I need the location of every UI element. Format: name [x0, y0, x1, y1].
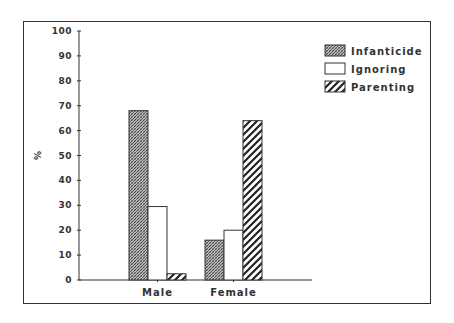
x-category-label: Male: [142, 287, 173, 298]
y-tick-label: 70: [58, 101, 72, 111]
y-tick-label: 10: [58, 250, 72, 260]
y-tick-label: 40: [58, 175, 72, 185]
axes: 0102030405060708090100%MaleFemale: [33, 26, 312, 298]
bar-female-ignoring: [224, 230, 243, 280]
y-tick-label: 60: [58, 126, 72, 136]
legend-swatch-parenting: [325, 81, 345, 92]
bar-chart: 0102030405060708090100%MaleFemale Infant…: [0, 0, 454, 323]
legend-label-infanticide: Infanticide: [351, 46, 423, 57]
y-tick-label: 50: [58, 151, 72, 161]
bar-male-ignoring: [148, 207, 167, 280]
bar-female-infanticide: [205, 240, 224, 280]
bar-male-parenting: [167, 274, 186, 280]
legend-label-ignoring: Ignoring: [351, 64, 407, 75]
bar-male-infanticide: [129, 111, 148, 280]
y-tick-label: 20: [58, 225, 72, 235]
x-category-label: Female: [210, 287, 257, 298]
y-tick-label: 90: [58, 51, 72, 61]
legend-swatch-ignoring: [325, 63, 345, 74]
y-tick-label: 100: [52, 26, 72, 36]
bar-female-parenting: [243, 121, 262, 280]
legend-label-parenting: Parenting: [351, 82, 415, 93]
legend: InfanticideIgnoringParenting: [325, 45, 423, 93]
bars: [129, 111, 262, 280]
y-axis-label: %: [33, 151, 43, 160]
y-tick-label: 30: [58, 200, 72, 210]
legend-swatch-infanticide: [325, 45, 345, 56]
y-tick-label: 0: [65, 275, 72, 285]
y-tick-label: 80: [58, 76, 72, 86]
